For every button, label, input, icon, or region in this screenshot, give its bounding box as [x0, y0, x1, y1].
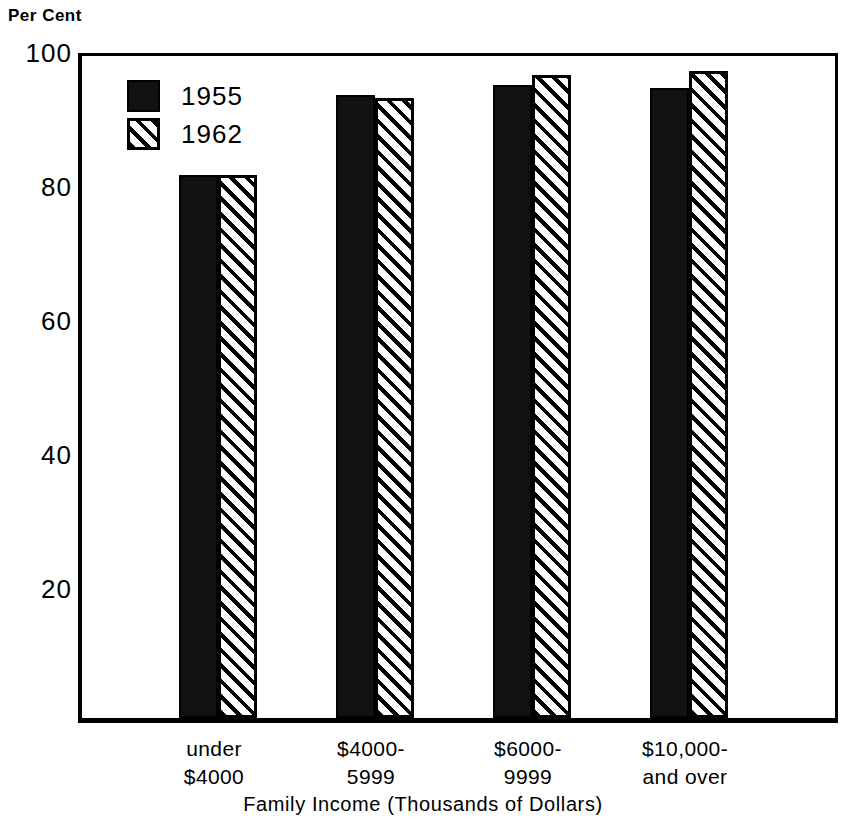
x-axis-label-3: $6000-9999	[438, 735, 618, 791]
x-axis-label-2: $4000-5999	[281, 735, 461, 791]
legend-item-1955: 1955	[127, 77, 243, 115]
y-axis-tick-label: 60	[0, 306, 72, 337]
x-axis-label-line: $6000-	[438, 735, 618, 763]
legend-item-1962: 1962	[127, 115, 243, 153]
x-axis-label-line: $10,000-	[595, 735, 775, 763]
bar-1955-3	[493, 85, 532, 718]
bar-1962-1	[218, 175, 257, 718]
x-axis-label-line: under	[124, 735, 304, 763]
bar-1962-2	[375, 98, 414, 718]
y-axis-tick-label: 100	[0, 38, 72, 69]
x-axis-label-line: 5999	[281, 763, 461, 791]
x-axis-label-4: $10,000-and over	[595, 735, 775, 791]
x-axis-title: Family Income (Thousands of Dollars)	[0, 793, 846, 816]
hatched-square-icon	[127, 118, 160, 150]
legend-label-1955: 1955	[181, 81, 243, 112]
x-axis-label-line: $4000-	[281, 735, 461, 763]
bar-1955-4	[650, 88, 689, 718]
x-axis-label-line: 9999	[438, 763, 618, 791]
chart-legend: 1955 1962	[127, 77, 243, 153]
solid-black-square-icon	[127, 80, 160, 112]
x-axis-label-line: $4000	[124, 763, 304, 791]
bar-1962-4	[689, 71, 728, 718]
y-axis-tick-label: 80	[0, 172, 72, 203]
bar-1962-3	[532, 75, 571, 718]
x-axis-label-1: under$4000	[124, 735, 304, 791]
y-axis-unit-caption: Per Cent	[8, 6, 82, 26]
y-axis-tick-label: 40	[0, 440, 72, 471]
bar-1955-2	[336, 95, 375, 718]
x-axis-label-line: and over	[595, 763, 775, 791]
bar-1955-1	[179, 175, 218, 718]
legend-label-1962: 1962	[181, 119, 243, 150]
y-axis-tick-label: 20	[0, 574, 72, 605]
plot-area: 1955 1962	[78, 53, 838, 723]
